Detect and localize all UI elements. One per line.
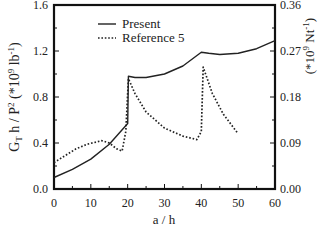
y2-tick-label: 0.36 [280, 0, 301, 12]
svg-text:(*109 Nt-1): (*109 Nt-1) [301, 18, 317, 74]
y2-tick-label: 0.00 [280, 182, 301, 196]
y-title-rest: h / P [7, 107, 22, 136]
y-title-unit-sup2: -1 [6, 47, 16, 55]
y-title-unit-rest: lb [7, 54, 22, 68]
y2-tick-label: 0.18 [280, 90, 301, 104]
legend-label-reference: Reference 5 [122, 30, 184, 45]
y-axis-title-left: GT h / P2 (*109 lb-1) [6, 42, 24, 152]
y2-tick-label: 0.27 [280, 44, 301, 58]
y-tick-label: 1.2 [33, 44, 48, 58]
svg-text:GT h / P2 (*109 lb-1): GT h / P2 (*109 lb-1) [6, 42, 24, 152]
y-tick-label: 1.6 [33, 0, 48, 12]
x-tick-label: 60 [269, 196, 281, 210]
y2-title-sup2: -1 [301, 22, 311, 30]
y2-title-rest: Nt [302, 29, 317, 46]
x-tick-label: 50 [232, 196, 244, 210]
x-tick-label: 30 [159, 196, 171, 210]
legend: Present Reference 5 [98, 16, 184, 45]
chart: 0.00.40.81.21.6 0.000.090.180.270.36 010… [0, 0, 326, 230]
x-tick-label: 0 [51, 196, 57, 210]
y-title-unit: (*10 [7, 73, 23, 102]
series-present [54, 41, 275, 178]
legend-label-present: Present [122, 16, 161, 31]
y-tick-label: 0.0 [33, 182, 48, 196]
y-axis-title-right: (*109 Nt-1) [301, 18, 317, 74]
bottom-axis-ticks: 0102030405060 [51, 184, 281, 210]
series-reference-5 [54, 67, 238, 163]
y2-tick-label: 0.09 [280, 136, 301, 150]
x-tick-label: 20 [122, 196, 134, 210]
y-title-g: G [7, 142, 22, 152]
y-tick-label: 0.8 [33, 90, 48, 104]
y-title-close: ) [7, 42, 23, 47]
x-axis-title: a / h [153, 212, 176, 227]
y-tick-label: 0.4 [33, 136, 48, 150]
series-lines [54, 41, 275, 178]
y2-title-open: (*10 [302, 50, 317, 74]
x-tick-label: 40 [195, 196, 207, 210]
y2-title-close: ) [302, 18, 317, 22]
x-tick-label: 10 [85, 196, 97, 210]
